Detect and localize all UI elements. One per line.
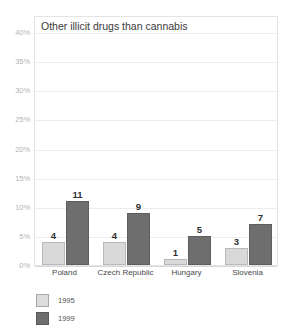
y-axis-tick-label: 30%: [15, 86, 30, 95]
y-axis-tick-label: 35%: [15, 57, 30, 66]
y-axis-tick-label: 15%: [15, 173, 30, 182]
y-axis-tick-label: 20%: [15, 144, 30, 153]
legend-item-1995[interactable]: 1995: [36, 292, 75, 308]
bar-value-label: 5: [197, 224, 202, 235]
category-label-slovenia: Slovenia: [232, 268, 263, 277]
gridline: [35, 266, 277, 267]
bar-value-label: 4: [51, 230, 56, 241]
y-axis-tick-label: 40%: [15, 28, 30, 37]
bar-value-label: 4: [112, 230, 117, 241]
legend-swatch-1995: [36, 294, 49, 307]
plot-area: Other illicit drugs than cannabis 411491…: [34, 16, 278, 266]
legend-swatch-1999: [36, 312, 49, 325]
bar-1999-czech-republic: [127, 213, 150, 265]
x-axis-category-labels: PolandCzech RepublicHungarySlovenia: [34, 268, 278, 284]
bar-1995-slovenia: [225, 248, 248, 265]
bar-1999-hungary: [188, 236, 211, 265]
bar-1995-czech-republic: [103, 242, 126, 265]
category-label-poland: Poland: [52, 268, 77, 277]
legend-label-1995: 1995: [58, 296, 75, 305]
bar-1999-slovenia: [249, 224, 272, 265]
bar-value-label: 7: [258, 212, 263, 223]
bar-1995-hungary: [164, 259, 187, 265]
category-label-czech-republic: Czech Republic: [97, 268, 153, 277]
y-axis-tick-label: 0%: [19, 261, 30, 270]
bar-1995-poland: [42, 242, 65, 265]
y-axis-tick-label: 25%: [15, 115, 30, 124]
chart-container: 0%5%10%15%20%25%30%35%40% Other illicit …: [0, 0, 289, 330]
bars-layer: 411491537: [35, 17, 277, 265]
legend-label-1999: 1999: [58, 314, 75, 323]
bar-value-label: 3: [234, 236, 239, 247]
bar-value-label: 1: [173, 247, 178, 258]
y-axis-tick-label: 5%: [19, 231, 30, 240]
y-axis: 0%5%10%15%20%25%30%35%40%: [0, 0, 34, 330]
y-axis-tick-label: 10%: [15, 202, 30, 211]
bar-value-label: 9: [136, 201, 141, 212]
legend-item-1999[interactable]: 1999: [36, 310, 75, 326]
category-label-hungary: Hungary: [171, 268, 201, 277]
bar-1999-poland: [66, 201, 89, 265]
bar-value-label: 11: [72, 189, 82, 200]
chart-legend: 19951999: [36, 292, 75, 328]
